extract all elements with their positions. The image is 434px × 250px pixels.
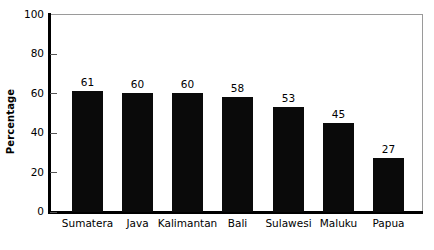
bar-chart: Percentage 020406080100 61Sumatera60Java… (0, 0, 434, 250)
y-tick-label: 60 (2, 88, 44, 99)
bar-group[interactable]: 61 (72, 0, 103, 212)
bar[interactable] (373, 158, 404, 211)
bar-group[interactable]: 27 (373, 0, 404, 212)
y-tick-mark (50, 133, 57, 134)
bar[interactable] (122, 93, 153, 212)
bar-value-label: 27 (373, 144, 404, 155)
y-tick-label: 100 (2, 9, 44, 20)
bar-group[interactable]: 60 (122, 0, 153, 212)
x-category-label: Papua (344, 218, 434, 229)
y-tick-mark (50, 172, 57, 173)
y-tick-mark (50, 54, 57, 55)
y-tick-label: 0 (2, 206, 44, 217)
y-tick-label: 20 (2, 167, 44, 178)
y-tick-mark (50, 93, 57, 94)
bar[interactable] (323, 123, 354, 212)
bar-group[interactable]: 53 (273, 0, 304, 212)
bar-value-label: 53 (273, 93, 304, 104)
y-tick-label: 80 (2, 48, 44, 59)
y-tick-mark (50, 212, 57, 213)
bar-value-label: 60 (122, 79, 153, 90)
bar[interactable] (273, 107, 304, 212)
bar-group[interactable]: 60 (172, 0, 203, 212)
y-axis-ticks: 020406080100 (0, 0, 60, 250)
bar[interactable] (72, 91, 103, 211)
bar-value-label: 61 (72, 77, 103, 88)
bar-group[interactable]: 58 (222, 0, 253, 212)
bar-value-label: 45 (323, 109, 354, 120)
bar[interactable] (222, 97, 253, 212)
bar-group[interactable]: 45 (323, 0, 354, 212)
bar[interactable] (172, 93, 203, 212)
y-tick-label: 40 (2, 127, 44, 138)
bar-value-label: 60 (172, 79, 203, 90)
bar-value-label: 58 (222, 83, 253, 94)
